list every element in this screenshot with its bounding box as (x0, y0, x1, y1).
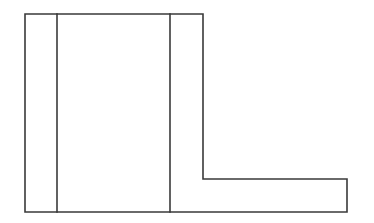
l-shaped-profile-diagram (0, 0, 374, 223)
background (0, 0, 374, 223)
